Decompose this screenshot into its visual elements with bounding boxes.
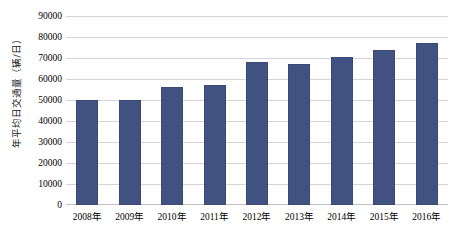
bar-slot [236,16,278,205]
y-axis-tick-labels: 0 10000 20000 30000 40000 50000 60000 70… [16,0,62,241]
y-tick-label: 90000 [16,11,62,21]
x-tick-label: 2009年 [108,207,150,229]
bar-chart: 年平均日交通量（辆/日） 0 10000 20000 30000 40000 5… [0,0,458,241]
bar-slot [406,16,448,205]
bar[interactable] [119,100,141,205]
bars-layer [66,16,448,205]
x-tick-label: 2014年 [321,207,363,229]
bar-slot [108,16,150,205]
bar[interactable] [331,57,353,205]
bar[interactable] [373,50,395,205]
y-tick-label: 30000 [16,137,62,147]
bar[interactable] [76,100,98,205]
x-tick-label: 2016年 [406,207,448,229]
plot-area [66,16,448,205]
bar[interactable] [288,64,310,205]
bar[interactable] [161,87,183,205]
x-tick-label: 2012年 [236,207,278,229]
bar-slot [151,16,193,205]
bar[interactable] [246,62,268,205]
bar-slot [321,16,363,205]
x-tick-label: 2008年 [66,207,108,229]
bar[interactable] [416,43,438,205]
bar[interactable] [204,85,226,205]
y-tick-label: 70000 [16,53,62,63]
y-tick-label: 80000 [16,32,62,42]
bar-slot [363,16,405,205]
y-tick-label: 10000 [16,179,62,189]
bar-slot [193,16,235,205]
bar-slot [66,16,108,205]
bar-slot [278,16,320,205]
x-tick-label: 2015年 [363,207,405,229]
x-axis-tick-labels: 2008年 2009年 2010年 2011年 2012年 2013年 2014… [66,207,448,229]
x-tick-label: 2010年 [151,207,193,229]
y-tick-label: 0 [16,200,62,210]
y-tick-label: 40000 [16,116,62,126]
x-tick-label: 2013年 [278,207,320,229]
y-tick-label: 60000 [16,74,62,84]
y-tick-label: 20000 [16,158,62,168]
y-tick-label: 50000 [16,95,62,105]
x-tick-label: 2011年 [193,207,235,229]
